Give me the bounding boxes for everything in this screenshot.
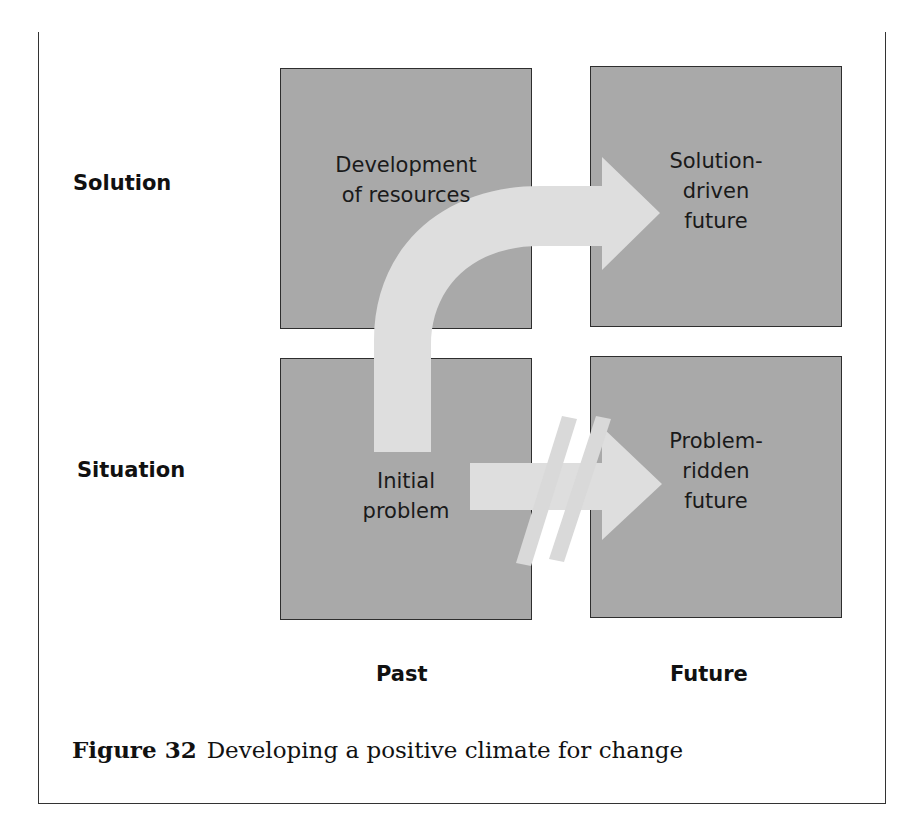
arrows-layer [0,0,918,816]
box-label-line: future [591,487,841,515]
box-label-line: ridden [591,457,841,485]
box-label-line: of resources [281,181,531,209]
box-label-line: Development [281,151,531,179]
box-label-line: Initial [281,467,531,495]
box-label-line: driven [591,177,841,205]
box-label-line: problem [281,497,531,525]
box-label-line: future [591,207,841,235]
box-label-line: Solution- [591,147,841,175]
box-label-line: Problem- [591,427,841,455]
